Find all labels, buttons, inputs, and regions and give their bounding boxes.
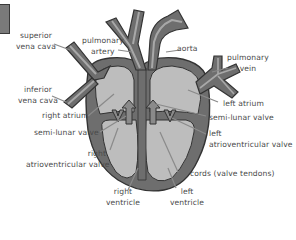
label-pulmonary-vein: pulmonary vein [227,52,269,74]
label-right-ventricle: right ventricle [106,186,140,208]
label-left-atrium: left atrium [223,98,264,109]
label-line: right [106,186,140,197]
label-line: cords (valve tendons) [190,168,275,179]
label-line: vena cava [18,95,58,106]
label-superior-vena-cava: superior vena cava [16,30,56,52]
label-line: pulmonary [82,35,124,46]
label-line: left [209,128,293,139]
label-line: ventricle [170,197,204,208]
label-line: right atrium [42,110,89,121]
label-right-atrioventricular-valve: right atrioventricular valve [26,148,106,170]
label-line: semi-lunar valve [209,112,274,123]
label-line: vena cava [16,41,56,52]
label-line: atrioventricular valve [26,159,106,170]
label-left-ventricle: left ventricle [170,186,204,208]
label-left-atrioventricular-valve: left atrioventricular valve [209,128,293,150]
label-line: ventricle [106,197,140,208]
label-line: semi-lunar valve [34,127,99,138]
septum [138,68,146,180]
label-line: left [170,186,204,197]
label-line: atrioventricular valve [209,139,293,150]
label-line: left atrium [223,98,264,109]
label-line: superior [16,30,56,41]
label-cords: cords (valve tendons) [190,168,275,179]
label-aorta: aorta [177,43,198,54]
label-line: pulmonary [227,52,269,63]
label-line: right [26,148,106,159]
label-line: artery [82,46,124,57]
label-semi-lunar-valve-right: semi-lunar valve [34,127,99,138]
label-line: inferior [18,84,58,95]
label-semi-lunar-valve-left: semi-lunar valve [209,112,274,123]
label-pulmonary-artery: pulmonary artery [82,35,124,57]
label-line: vein [227,63,269,74]
label-line: aorta [177,43,198,54]
label-inferior-vena-cava: inferior vena cava [18,84,58,106]
label-right-atrium: right atrium [42,110,89,121]
